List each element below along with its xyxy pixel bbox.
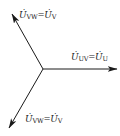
subscript: U (103, 55, 108, 63)
subscript: V (58, 117, 63, 125)
label-right: U̇UV=U̇U (71, 52, 108, 64)
subscript: UV (78, 55, 88, 63)
symbol-u-dot: U̇ (50, 114, 57, 124)
subscript: V (52, 13, 57, 21)
symbol-u-dot: U̇ (95, 52, 102, 62)
symbol-u-dot: U̇ (44, 10, 51, 20)
label-upper-left: U̇VW=U̇V (19, 10, 56, 22)
subscript: VW (32, 117, 43, 125)
phasor-upper-left (12, 14, 43, 69)
subscript: VW (26, 13, 37, 21)
label-lower-left: U̇VW=U̇V (25, 114, 62, 126)
